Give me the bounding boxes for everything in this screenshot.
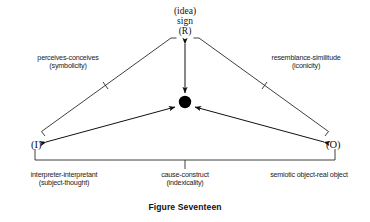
edge-label-left: perceives-conceives (symbolicity) [16, 54, 120, 71]
vertex-caption-bottom-left-line2: (subject-thought) [8, 179, 120, 187]
figure-seventeen-diagram: (idea) sign (R) (I) (O) perceives-concei… [0, 0, 370, 222]
edge-label-bottom-center-line2: (indexicality) [131, 179, 239, 187]
apex-label-representamen: (R) [155, 26, 215, 37]
edge-label-right: resemblance-similitude (iconicity) [250, 54, 362, 71]
vertex-caption-bottom-right-line1: semiotic object-real object [252, 171, 366, 179]
center-node-dot [179, 96, 191, 108]
edge-bracket-bottom [35, 149, 335, 169]
vertex-label-interpretant: (I) [31, 139, 42, 150]
vertex-label-object: (O) [326, 139, 341, 150]
vertex-caption-bottom-right: semiotic object-real object [252, 171, 366, 179]
edge-label-left-line2: (symbolicity) [16, 62, 120, 70]
vertex-caption-bottom-left: interpreter-interpretant (subject-though… [8, 171, 120, 188]
arrow-object-to-center [195, 107, 324, 142]
arrow-interpretant-to-center [46, 107, 175, 142]
figure-caption: Figure Seventeen [0, 202, 370, 212]
edge-label-bottom-center: cause-construct (indexicality) [131, 171, 239, 188]
edge-label-right-line2: (iconicity) [250, 62, 362, 70]
